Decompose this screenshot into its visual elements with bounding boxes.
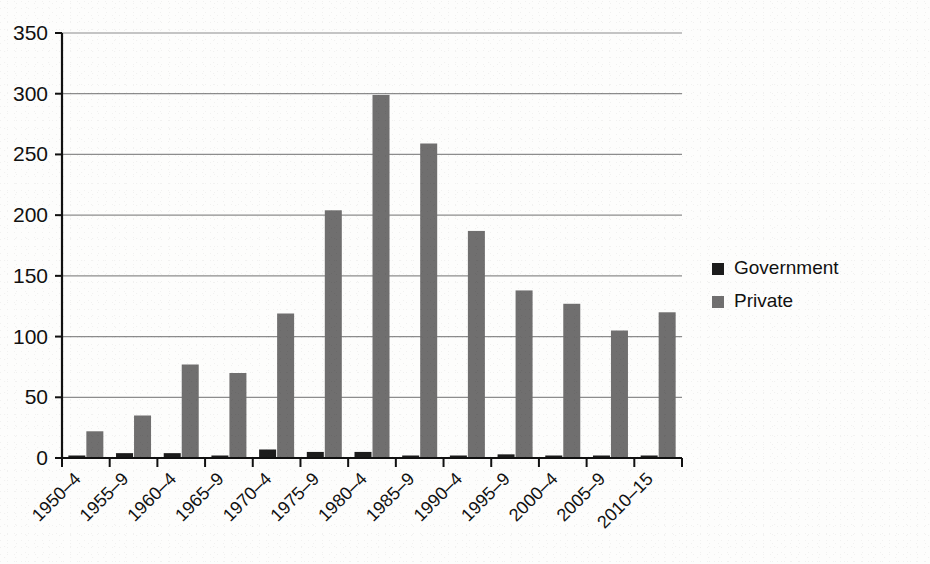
y-tick-label: 300	[13, 82, 48, 105]
bars-group	[68, 95, 675, 458]
x-tick-label: 1960–4	[123, 469, 180, 526]
bar	[611, 331, 628, 459]
value-axis: 050100150200250300350	[13, 21, 62, 469]
chart-canvas: 050100150200250300350 1950–41955–91960–4…	[0, 0, 930, 564]
legend-label[interactable]: Government	[734, 257, 839, 278]
bar	[229, 373, 246, 458]
x-tick-label: 1955–9	[76, 469, 133, 526]
y-tick-label: 200	[13, 203, 48, 226]
y-tick-label: 150	[13, 264, 48, 287]
y-tick-label: 0	[36, 446, 48, 469]
x-tick-label: 1965–9	[171, 469, 228, 526]
bar	[277, 314, 294, 459]
bar	[182, 365, 199, 459]
x-tick-label: 1950–4	[28, 469, 85, 526]
legend-swatch-square-marker	[712, 296, 724, 308]
bar	[468, 231, 485, 458]
bar	[659, 312, 676, 458]
y-tick-label: 350	[13, 21, 48, 44]
x-tick-label: 1975–9	[267, 469, 324, 526]
bar	[259, 450, 276, 459]
y-tick-label: 50	[25, 385, 48, 408]
chart-legend[interactable]: GovernmentPrivate	[712, 257, 839, 311]
x-tick-label: 2000–4	[505, 469, 562, 526]
legend-swatch-square-marker	[712, 263, 724, 275]
gridlines-group	[62, 33, 682, 458]
legend-label[interactable]: Private	[734, 290, 793, 311]
category-labels-group: 1950–41955–91960–41965–91970–41975–91980…	[28, 469, 657, 533]
bar	[134, 416, 151, 459]
bar	[420, 144, 437, 459]
bar-chart-figure: 050100150200250300350 1950–41955–91960–4…	[0, 0, 930, 564]
bar	[563, 304, 580, 458]
category-axis	[62, 458, 682, 467]
x-tick-label: 1995–9	[457, 469, 514, 526]
x-tick-label: 1980–4	[314, 469, 371, 526]
x-tick-label: 1985–9	[362, 469, 419, 526]
x-tick-label: 1970–4	[219, 469, 276, 526]
bar	[373, 95, 390, 458]
x-tick-label: 1990–4	[410, 469, 467, 526]
bar	[516, 290, 533, 458]
bar	[325, 210, 342, 458]
y-tick-label: 100	[13, 325, 48, 348]
y-tick-label: 250	[13, 142, 48, 165]
bar	[86, 431, 103, 458]
